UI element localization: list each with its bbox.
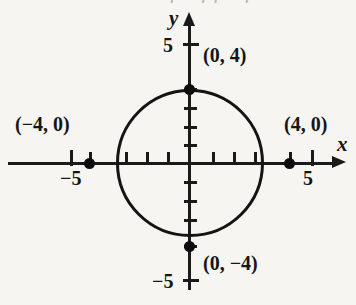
x-tick-5 [311, 150, 314, 166]
point-label-left: (−4, 0) [15, 114, 70, 134]
y-tick-minus-5 [183, 279, 199, 282]
point-label-top: (0, 4) [203, 45, 246, 65]
x-tick-minus-5 [70, 150, 73, 166]
x-axis-tick-label-negative: −5 [60, 168, 81, 188]
point-marker-top [184, 84, 195, 95]
point-marker-right [284, 158, 295, 169]
x-axis-tick-label-positive: 5 [303, 168, 313, 188]
y-axis-label: y [169, 8, 178, 29]
point-marker-left [84, 158, 95, 169]
point-marker-bottom [184, 241, 195, 252]
point-label-right: (4, 0) [284, 114, 327, 134]
y-axis-arrowhead-icon [183, 12, 195, 26]
cropped-text-remnant: ( , ) ( , ) [170, 0, 356, 3]
point-label-bottom: (0, −4) [203, 253, 258, 273]
circle-curve [116, 89, 264, 237]
coordinate-plane-figure: ( , ) ( , ) y x 5 −5 −5 5 (0, 4) (4, 0) … [0, 0, 356, 305]
x-axis-arrowhead-icon [332, 156, 346, 168]
y-tick-5 [183, 43, 199, 46]
x-axis-label: x [337, 134, 348, 155]
y-axis-tick-label-positive: 5 [163, 35, 173, 55]
y-axis-tick-label-negative: −5 [152, 271, 173, 291]
